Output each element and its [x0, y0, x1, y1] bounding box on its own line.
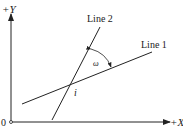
- line-1-label: Line 1: [141, 39, 167, 50]
- origin-point: [10, 121, 13, 124]
- x-axis-label: +X: [170, 116, 183, 128]
- y-axis-label: +Y: [2, 3, 17, 15]
- line-1: [22, 52, 152, 104]
- intersection-label: i: [74, 87, 77, 98]
- origin-label: 0: [1, 117, 6, 128]
- angle-label: ω: [93, 59, 99, 68]
- line-2: [52, 27, 100, 120]
- line-intersection-diagram: +Y 0 +X Line 2 Line 1 i ω: [0, 0, 183, 132]
- line-2-label: Line 2: [87, 13, 113, 24]
